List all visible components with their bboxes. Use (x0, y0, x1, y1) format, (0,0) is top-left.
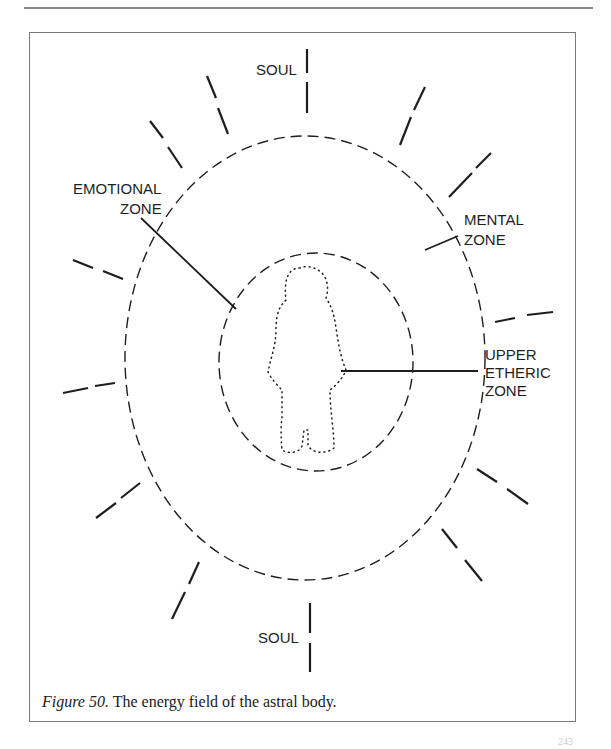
mental-zone-label-line1: MENTAL (464, 211, 524, 228)
emotional-zone-leader (141, 218, 236, 309)
ray-upper-left-2 (150, 121, 163, 138)
inner-aura-ellipse (219, 253, 413, 471)
soul-top-label: SOUL (256, 61, 297, 78)
ray-left-1 (73, 260, 93, 268)
ray-lower-left (189, 562, 199, 584)
body-outline-dotted (268, 267, 346, 453)
emotional-zone-label-line1: EMOTIONAL (73, 180, 161, 197)
ray-upper-right-2 (476, 153, 491, 168)
mental-zone-label-line2: ZONE (464, 231, 506, 248)
ray-right-3 (442, 529, 457, 548)
upper-etheric-label-line2: ETHERIC (485, 364, 551, 381)
figure-caption: Figure 50. The energy field of the astra… (42, 693, 337, 711)
ray-upper-left-1 (207, 76, 216, 98)
figure-number: Figure 50. (42, 693, 109, 710)
emotional-zone-label-line2: ZONE (120, 200, 162, 217)
soul-bottom-label: SOUL (258, 629, 299, 646)
page-number: 243 (558, 736, 573, 747)
astral-body-diagram: SOUL EMOTIONAL ZONE MENTAL ZONE UPPER ET… (0, 0, 611, 749)
ray-right-1 (495, 318, 515, 322)
ray-right-2 (477, 469, 497, 482)
outer-aura-ellipse (125, 136, 485, 580)
figure-caption-text: The energy field of the astral body. (113, 693, 337, 710)
mental-zone-leader (425, 236, 458, 250)
upper-etheric-label-line3: ZONE (485, 382, 527, 399)
energy-rays (63, 49, 553, 672)
ray-upper-right-1 (414, 87, 425, 110)
ray-left-3 (96, 503, 116, 518)
upper-etheric-label-line1: UPPER (485, 346, 537, 363)
ray-left-2 (63, 388, 88, 393)
